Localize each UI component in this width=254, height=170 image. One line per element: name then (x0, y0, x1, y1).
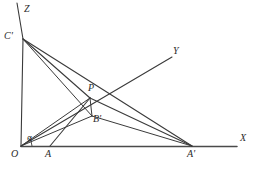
z-axis-line (17, 3, 23, 39)
segment-Bprime-Aprime (92, 116, 192, 146)
axis-label-z: Z (24, 4, 30, 14)
segment-Cprime-O (21, 39, 23, 146)
segment-Cprime-P (23, 39, 90, 98)
axis-label-y: Y (173, 46, 179, 56)
point-label-A: A (45, 149, 51, 159)
segment-P-Bprime (90, 98, 92, 116)
point-label-P: P (88, 83, 94, 93)
geometry-figure: Z Y X O A A' C' P B' α (0, 0, 254, 170)
point-label-C-prime: C' (4, 31, 13, 41)
segment-Cprime-Bprime (23, 39, 92, 116)
point-label-O: O (11, 149, 18, 159)
point-label-A-prime: A' (187, 149, 195, 159)
axis-label-x: X (240, 133, 246, 143)
angle-label-alpha: α (27, 135, 32, 143)
point-label-B-prime: B' (93, 114, 101, 124)
figure-canvas (0, 0, 254, 170)
segment-P-Aprime (90, 98, 192, 146)
